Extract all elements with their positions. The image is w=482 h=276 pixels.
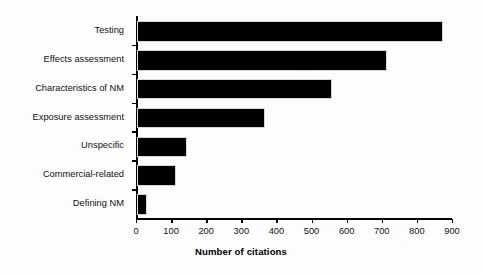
x-axis-tick-label: 600 — [327, 226, 367, 237]
category-label: Exposure assessment — [0, 112, 124, 122]
bar — [137, 194, 147, 214]
x-axis-tick-label: 0 — [116, 226, 156, 237]
x-axis-tick-label: 700 — [362, 226, 402, 237]
y-axis-tick — [132, 74, 136, 75]
x-axis-tick — [452, 219, 453, 223]
y-axis-tick — [132, 189, 136, 190]
x-axis-tick-label: 900 — [432, 226, 472, 237]
x-axis-tick-label: 800 — [397, 226, 437, 237]
x-axis-tick — [136, 219, 137, 223]
x-axis-tick — [206, 219, 207, 223]
bar — [137, 108, 265, 128]
category-axis-labels: TestingEffects assessmentCharacteristics… — [0, 16, 130, 218]
y-axis-tick — [132, 131, 136, 132]
category-label: Defining NM — [0, 198, 124, 208]
x-axis-tick-label: 100 — [151, 226, 191, 237]
x-axis-tick — [241, 219, 242, 223]
category-label: Testing — [0, 25, 124, 35]
category-label: Effects assessment — [0, 54, 124, 64]
x-axis-tick — [276, 219, 277, 223]
y-axis-tick — [132, 160, 136, 161]
x-axis-tick — [171, 219, 172, 223]
plot-area: 0100200300400500600700800900 — [136, 16, 452, 218]
x-axis-line — [136, 218, 452, 220]
x-axis-title: Number of citations — [0, 246, 482, 257]
x-axis-tick — [382, 219, 383, 223]
x-axis-tick-label: 400 — [256, 226, 296, 237]
x-axis-tick-label: 200 — [186, 226, 226, 237]
x-axis-tick — [312, 219, 313, 223]
bar — [137, 50, 387, 70]
y-axis-tick — [132, 103, 136, 104]
category-label: Unspecific — [0, 140, 124, 150]
x-axis-tick-label: 300 — [221, 226, 261, 237]
bar — [137, 137, 187, 157]
bar — [137, 79, 332, 99]
category-label: Characteristics of NM — [0, 83, 124, 93]
x-axis-tick — [417, 219, 418, 223]
x-axis-tick — [347, 219, 348, 223]
bar — [137, 165, 176, 185]
y-axis-tick — [132, 45, 136, 46]
category-label: Commercial-related — [0, 169, 124, 179]
bar-chart-figure: TestingEffects assessmentCharacteristics… — [0, 0, 482, 276]
bar — [137, 21, 443, 41]
x-axis-tick-label: 500 — [292, 226, 332, 237]
